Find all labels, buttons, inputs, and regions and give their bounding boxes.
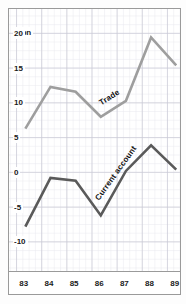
x-axis-tick-label: 87	[118, 278, 131, 289]
x-axis-tick-label: 89	[168, 278, 181, 289]
chart-container: $bn Trade Current account 20151050-5-10-…	[0, 0, 186, 304]
chart-series-layer	[9, 9, 180, 294]
x-axis-tick-label: 83	[17, 278, 30, 289]
series-line-current-account	[25, 145, 176, 226]
x-axis-tick-label: 86	[93, 278, 106, 289]
x-axis-tick-label: 84	[42, 278, 55, 289]
x-axis-tick-label: 85	[68, 278, 81, 289]
x-axis-strip: 83848586878889	[9, 271, 180, 294]
plot-area: $bn Trade Current account 20151050-5-10-…	[8, 8, 181, 295]
x-axis-tick-label: 88	[143, 278, 156, 289]
series-line-trade	[25, 38, 176, 129]
